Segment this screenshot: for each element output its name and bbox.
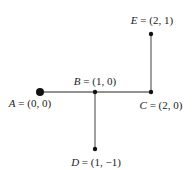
node-a bbox=[36, 88, 44, 96]
node-label-b: B = (1, 0) bbox=[74, 76, 116, 87]
node-label-d-coords: = (1, −1) bbox=[79, 156, 121, 168]
node-label-e-var: E bbox=[131, 14, 138, 26]
node-e bbox=[149, 32, 153, 36]
node-label-a-var: A bbox=[9, 97, 16, 109]
node-label-b-coords: = (1, 0) bbox=[81, 75, 117, 87]
node-label-a: A = (0, 0) bbox=[9, 98, 51, 109]
node-label-d: D = (1, −1) bbox=[71, 157, 121, 168]
graph-diagram: A = (0, 0) B = (1, 0) C = (2, 0) D = (1,… bbox=[0, 0, 193, 170]
node-label-b-var: B bbox=[74, 75, 81, 87]
node-b bbox=[93, 90, 97, 94]
node-c bbox=[149, 90, 153, 94]
node-label-e-coords: = (2, 1) bbox=[138, 14, 174, 26]
node-label-c-coords: = (2, 0) bbox=[147, 99, 183, 111]
node-label-e: E = (2, 1) bbox=[131, 15, 173, 26]
node-label-d-var: D bbox=[71, 156, 79, 168]
node-label-a-coords: = (0, 0) bbox=[16, 97, 52, 109]
node-label-c: C = (2, 0) bbox=[140, 100, 183, 111]
node-d bbox=[93, 147, 97, 151]
